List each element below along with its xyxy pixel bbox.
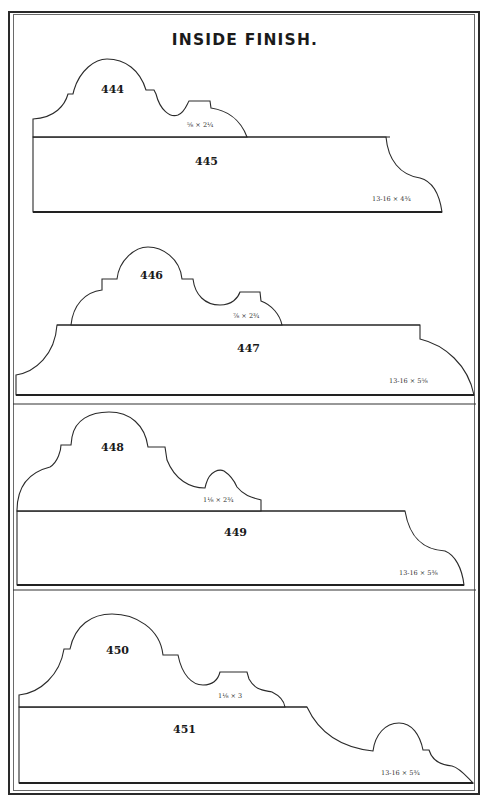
profile-size-448: 1⅛ × 2¾: [203, 496, 234, 504]
profile-size-446: ⅞ × 2¾: [233, 312, 260, 320]
profile-group-1: 444 ⅝ × 2¼ 445 13-16 × 4¾: [33, 59, 442, 212]
profile-number-446: 446: [140, 269, 163, 282]
profile-size-449: 13-16 × 5⅜: [399, 569, 438, 577]
profile-size-450: 1⅛ × 3: [218, 692, 242, 700]
profile-number-450: 450: [106, 644, 129, 657]
moulding-450-outline: [19, 614, 285, 707]
moulding-444-outline: [33, 59, 247, 137]
profile-number-448: 448: [101, 441, 124, 454]
profile-number-451: 451: [173, 723, 196, 736]
profile-size-445: 13-16 × 4¾: [372, 195, 411, 203]
moulding-profiles: 444 ⅝ × 2¼ 445 13-16 × 4¾ 446 ⅞ × 2¾ 447…: [0, 0, 490, 797]
profile-size-447: 13-16 × 5⅝: [389, 377, 428, 385]
profile-size-444: ⅝ × 2¼: [187, 121, 214, 129]
profile-number-445: 445: [195, 155, 218, 168]
profile-number-447: 447: [237, 342, 260, 355]
profile-group-4: 450 1⅛ × 3 451 13-16 × 5¾: [19, 614, 473, 783]
moulding-449-outline: [17, 511, 464, 585]
profile-number-449: 449: [224, 526, 247, 539]
profile-group-3: 448 1⅛ × 2¾ 449 13-16 × 5⅜: [17, 412, 464, 585]
profile-size-451: 13-16 × 5¾: [381, 769, 420, 777]
profile-group-2: 446 ⅞ × 2¾ 447 13-16 × 5⅝: [16, 247, 474, 395]
profile-number-444: 444: [101, 83, 124, 96]
